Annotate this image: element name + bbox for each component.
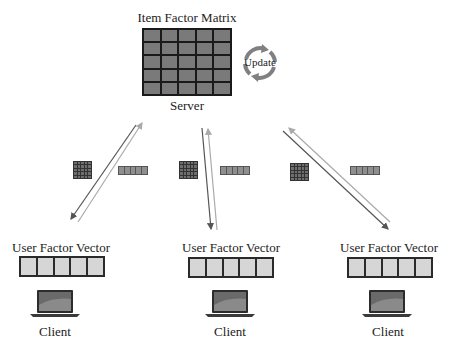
user-factor-vector xyxy=(347,257,433,278)
user-factor-vector-title: User Factor Vector xyxy=(12,241,110,254)
matrix-icon xyxy=(290,163,309,181)
vector-icon xyxy=(350,166,380,175)
client-label: Client xyxy=(39,325,71,338)
matrix-icon xyxy=(179,161,198,179)
laptop-icon xyxy=(28,289,82,319)
vector-icon xyxy=(220,166,250,175)
laptop-icon xyxy=(360,289,414,319)
user-factor-vector xyxy=(19,256,105,277)
user-factor-vector-title: User Factor Vector xyxy=(182,241,280,254)
client-label: Client xyxy=(372,325,404,338)
client-label: Client xyxy=(214,325,246,338)
laptop-icon xyxy=(203,289,257,319)
vector-icon xyxy=(118,166,148,175)
user-factor-vector xyxy=(188,257,274,278)
user-factor-vector-title: User Factor Vector xyxy=(340,241,438,254)
matrix-icon xyxy=(73,161,92,179)
